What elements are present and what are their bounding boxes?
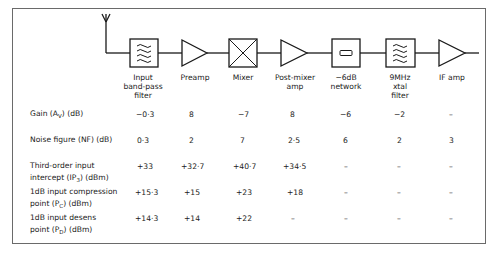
header-6db-network: −6dB network bbox=[316, 73, 376, 91]
header-mixer: Mixer bbox=[213, 73, 273, 82]
row-label-compression-point: 1dB input compression point (PC) (dBm) bbox=[30, 186, 117, 209]
cell-pc-preamp: +15 bbox=[184, 188, 200, 197]
cell-ip3-6db-network: – bbox=[344, 162, 348, 171]
cell-nf-post-mixer: 2·5 bbox=[288, 136, 300, 145]
cell-nf-if-amp: 3 bbox=[449, 136, 454, 145]
if-amp-triangle-icon bbox=[439, 40, 465, 66]
cell-pd-post-mixer: – bbox=[291, 214, 295, 223]
cell-nf-xtal-filter: 2 bbox=[397, 136, 402, 145]
cell-ip3-mixer: +40·7 bbox=[233, 162, 256, 171]
cell-pd-preamp: +14 bbox=[184, 214, 200, 223]
cell-nf-6db-network: 6 bbox=[343, 136, 348, 145]
cell-pd-input-bpf: +14·3 bbox=[135, 214, 158, 223]
preamp-triangle-icon bbox=[182, 40, 207, 66]
cell-pc-if-amp: – bbox=[449, 188, 453, 197]
header-input-bandpass-filter: Input band-pass filter bbox=[113, 73, 173, 100]
cell-pc-input-bpf: +15·3 bbox=[135, 188, 158, 197]
cell-ip3-post-mixer: +34·5 bbox=[283, 162, 306, 171]
cell-nf-preamp: 2 bbox=[189, 136, 194, 145]
cell-ip3-xtal-filter: – bbox=[397, 162, 401, 171]
cell-pd-if-amp: – bbox=[449, 214, 453, 223]
cell-pd-6db-network: – bbox=[344, 214, 348, 223]
cell-nf-input-bpf: 0·3 bbox=[137, 136, 149, 145]
cell-gain-xtal-filter: −2 bbox=[394, 110, 405, 119]
antenna-icon bbox=[102, 14, 130, 53]
attenuator-icon bbox=[332, 39, 360, 67]
cell-pc-mixer: +23 bbox=[236, 188, 252, 197]
cell-ip3-if-amp: – bbox=[449, 162, 453, 171]
cell-gain-6db-network: −6 bbox=[340, 110, 351, 119]
xtal-filter-icon bbox=[386, 39, 415, 67]
cell-gain-preamp: 8 bbox=[189, 110, 194, 119]
bandpass-filter-icon bbox=[130, 39, 158, 67]
cell-nf-mixer: 7 bbox=[240, 136, 245, 145]
cell-pc-6db-network: – bbox=[344, 188, 348, 197]
cell-pd-xtal-filter: – bbox=[397, 214, 401, 223]
row-label-third-order-intercept: Third-order input intercept (IP3) (dBm) bbox=[30, 160, 109, 183]
row-label-desens-point: 1dB input desens point (PD) (dBm) bbox=[30, 212, 96, 235]
cell-ip3-input-bpf: +33 bbox=[137, 162, 153, 171]
cell-pc-post-mixer: +18 bbox=[287, 188, 303, 197]
row-label-noise-figure: Noise figure (NF) (dB) bbox=[30, 134, 112, 146]
header-if-amp: IF amp bbox=[422, 73, 482, 82]
row-label-gain: Gain (AV) (dB) bbox=[30, 108, 83, 120]
mixer-icon bbox=[229, 39, 257, 67]
cell-gain-mixer: −7 bbox=[238, 110, 249, 119]
header-xtal-filter: 9MHz xtal filter bbox=[370, 73, 430, 100]
cell-gain-if-amp: – bbox=[449, 110, 453, 119]
cell-pc-xtal-filter: – bbox=[397, 188, 401, 197]
cell-pd-mixer: +22 bbox=[236, 214, 252, 223]
cell-ip3-preamp: +32·7 bbox=[181, 162, 204, 171]
cell-gain-post-mixer: 8 bbox=[290, 110, 295, 119]
cell-gain-input-bpf: −0·3 bbox=[136, 110, 154, 119]
post-mixer-amp-triangle-icon bbox=[281, 40, 307, 66]
